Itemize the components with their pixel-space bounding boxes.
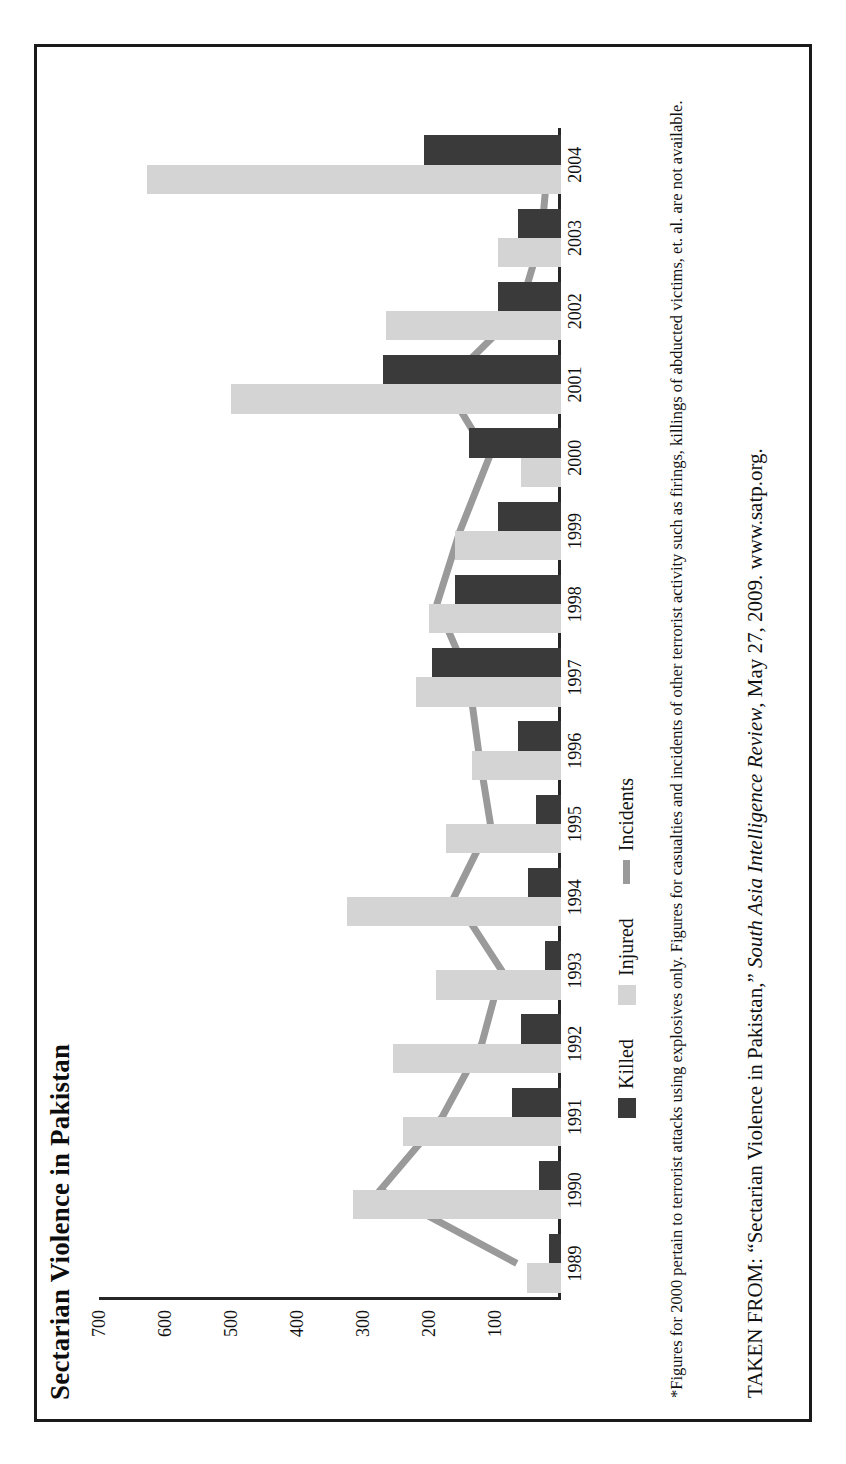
- value-axis-ticks: 700600500400300200100: [37, 1300, 499, 1418]
- category-label: 2004: [565, 132, 586, 198]
- legend-item: Injured: [615, 918, 638, 1005]
- category-label: 1995: [565, 791, 586, 857]
- legend-label: Incidents: [615, 778, 638, 851]
- value-tick-label: 600: [155, 1310, 176, 1380]
- bar-killed: [521, 1014, 561, 1043]
- source-prefix: TAKEN FROM: “Sectarian Violence in Pakis…: [743, 968, 767, 1398]
- footnote: *Figures for 2000 pertain to terrorist a…: [665, 68, 688, 1398]
- category-label: 1992: [565, 1011, 586, 1077]
- category-label: 1993: [565, 937, 586, 1003]
- bar-injured: [393, 1044, 561, 1073]
- bar-killed: [539, 1161, 561, 1190]
- value-tick-label: 200: [419, 1310, 440, 1380]
- category-label: 1997: [565, 644, 586, 710]
- bar-injured: [521, 458, 561, 487]
- category-label: 1991: [565, 1084, 586, 1150]
- bar-killed: [432, 648, 561, 677]
- figure-page: Sectarian Violence in Pakistan 700600500…: [0, 0, 846, 1464]
- bar-killed: [512, 1088, 562, 1117]
- bar-killed: [383, 355, 561, 384]
- bar-injured: [429, 604, 561, 633]
- category-label: 1989: [565, 1230, 586, 1296]
- bar-injured: [416, 677, 561, 706]
- bar-killed: [498, 282, 561, 311]
- figure-frame: Sectarian Violence in Pakistan 700600500…: [34, 44, 812, 1422]
- category-label: 2000: [565, 425, 586, 491]
- bar-injured: [527, 1263, 561, 1292]
- category-label: 1996: [565, 718, 586, 784]
- bar-killed: [518, 209, 561, 238]
- bar-injured: [446, 824, 562, 853]
- legend-swatch-icon: [618, 985, 636, 1005]
- category-label: 1990: [565, 1157, 586, 1223]
- bar-killed: [424, 135, 561, 164]
- value-tick-label: 400: [287, 1310, 308, 1380]
- bar-injured: [231, 384, 561, 413]
- bar-injured: [436, 970, 561, 999]
- legend-label: Injured: [615, 918, 638, 976]
- bar-killed: [549, 1234, 561, 1263]
- legend-swatch-icon: [623, 860, 630, 884]
- bar-killed: [469, 428, 561, 457]
- legend-item: Incidents: [615, 778, 638, 884]
- category-label: 2001: [565, 351, 586, 417]
- bar-killed: [545, 941, 561, 970]
- category-label: 1994: [565, 864, 586, 930]
- legend-swatch-icon: [618, 1098, 636, 1118]
- category-axis-labels: 1989199019911992199319941995199619971998…: [561, 128, 601, 1300]
- source-note: TAKEN FROM: “Sectarian Violence in Pakis…: [743, 68, 768, 1398]
- value-tick-label: 700: [89, 1310, 110, 1380]
- bar-injured: [353, 1190, 561, 1219]
- value-tick-label: 100: [485, 1310, 506, 1380]
- bar-injured: [347, 897, 562, 926]
- category-label: 2003: [565, 205, 586, 271]
- bar-injured: [403, 1117, 561, 1146]
- bar-injured: [386, 311, 561, 340]
- bar-killed: [528, 868, 561, 897]
- rotated-stage: Sectarian Violence in Pakistan 700600500…: [37, 48, 809, 1418]
- bar-killed: [455, 575, 561, 604]
- legend-item: Killed: [615, 1039, 638, 1118]
- bar-injured: [498, 238, 561, 267]
- bar-killed: [498, 502, 561, 531]
- value-tick-label: 500: [221, 1310, 242, 1380]
- category-label: 1999: [565, 498, 586, 564]
- bar-injured: [455, 531, 561, 560]
- bar-killed: [518, 721, 561, 750]
- legend: KilledInjuredIncidents: [615, 778, 638, 1118]
- bar-injured: [472, 751, 561, 780]
- bar-injured: [147, 165, 561, 194]
- bar-killed: [536, 795, 561, 824]
- plot-area: [99, 128, 561, 1300]
- source-publication: South Asia Intelligence Review: [743, 708, 767, 968]
- category-label: 2002: [565, 278, 586, 344]
- source-suffix: , May 27, 2009. www.satp.org.: [743, 448, 767, 708]
- category-label: 1998: [565, 571, 586, 637]
- value-tick-label: 300: [353, 1310, 374, 1380]
- legend-label: Killed: [615, 1039, 638, 1089]
